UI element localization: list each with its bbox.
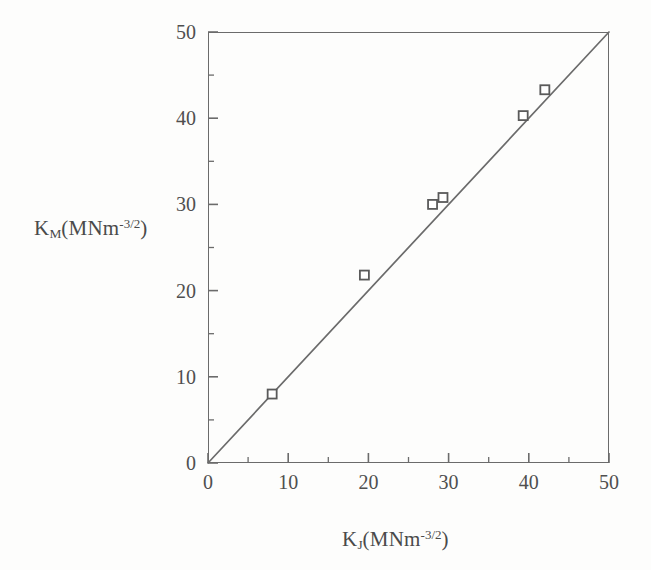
x-tick-label: 50 <box>599 471 619 494</box>
axis-title-superscript: -3/2 <box>119 216 140 231</box>
x-axis-title: KJ(MNm-3/2) <box>342 527 449 553</box>
axis-title-symbol: K <box>342 527 357 551</box>
y-tick-label: 50 <box>176 21 196 44</box>
x-tick-label: 40 <box>519 471 539 494</box>
plot-frame <box>208 32 609 463</box>
x-tick-label: 20 <box>358 471 378 494</box>
axis-title-close-paren: ) <box>140 216 147 240</box>
x-tick-label: 10 <box>278 471 298 494</box>
y-tick-label: 40 <box>176 107 196 130</box>
axis-title-superscript: -3/2 <box>421 527 442 542</box>
y-axis-title: KM(MNm-3/2) <box>34 216 147 242</box>
axis-title-unit: (MNm <box>61 216 119 240</box>
y-tick-label: 0 <box>186 452 196 475</box>
axis-title-close-paren: ) <box>442 527 449 551</box>
y-tick-label: 20 <box>176 279 196 302</box>
axis-title-unit: (MNm <box>363 527 421 551</box>
x-tick-label: 30 <box>439 471 459 494</box>
figure: 01020304050 01020304050 KM(MNm-3/2) KJ(M… <box>0 0 651 570</box>
axis-title-subscript: M <box>49 226 61 241</box>
y-tick-label: 30 <box>176 193 196 216</box>
x-tick-label: 0 <box>203 471 213 494</box>
axis-title-symbol: K <box>34 216 49 240</box>
y-tick-label: 10 <box>176 365 196 388</box>
